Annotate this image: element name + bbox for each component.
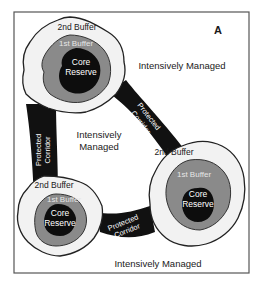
matrix-label-center-line1: Intensively <box>77 129 122 140</box>
corridor-left-label-line1: Protected <box>34 134 43 166</box>
second-buffer-label: 2nd Buffer <box>154 147 193 157</box>
core-label-line1: Core <box>72 57 91 67</box>
core-label-line1: Core <box>51 208 70 218</box>
panel-label: A <box>214 24 222 36</box>
core-label-line2: Reserve <box>65 67 97 77</box>
core-label-line2: Reserve <box>44 218 76 228</box>
first-buffer-label: 1st Buffer <box>59 39 93 48</box>
first-buffer-label: 1st Buffer <box>177 170 211 179</box>
corridor-left-label-line2: Corridor <box>43 136 52 164</box>
reserve-network-diagram: 2nd Buffer 1st Buffer Core Reserve 2nd B… <box>0 0 262 285</box>
first-buffer-label: 1st Buffer <box>47 195 81 204</box>
core-label-line1: Core <box>189 189 208 199</box>
second-buffer-label: 2nd Buffer <box>57 22 96 32</box>
core-label-line2: Reserve <box>182 199 214 209</box>
matrix-label-bottom: Intensively Managed <box>114 258 201 269</box>
matrix-label-top: Intensively Managed <box>138 60 225 71</box>
second-buffer-label: 2nd Buffer <box>34 180 73 190</box>
matrix-label-center-line2: Managed <box>79 141 119 152</box>
